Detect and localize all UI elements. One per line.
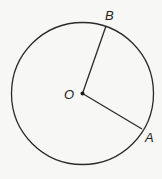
radius-ob — [83, 26, 107, 94]
center-point — [81, 92, 85, 96]
label-a: A — [144, 130, 154, 145]
circle-diagram: O B A — [0, 0, 162, 179]
label-b: B — [105, 8, 114, 23]
label-o: O — [64, 87, 74, 102]
radius-oa — [83, 94, 143, 130]
